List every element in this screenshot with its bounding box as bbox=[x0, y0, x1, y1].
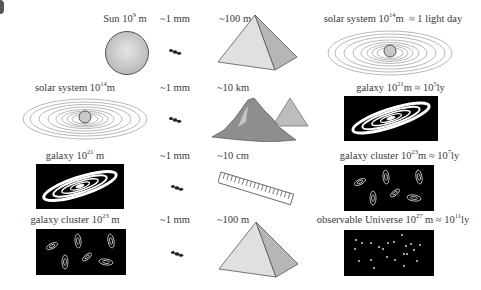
ruler-icon bbox=[218, 168, 298, 206]
label-galaxy-ly: galaxy 1021m ≈ 105ly bbox=[320, 82, 481, 93]
label-ant-3: ~1 mm bbox=[150, 150, 200, 161]
observable-universe-icon bbox=[344, 230, 434, 276]
ant-icon bbox=[170, 184, 184, 192]
galaxy-icon bbox=[36, 164, 124, 209]
sun-icon bbox=[104, 30, 150, 76]
label-galaxy-cluster-ly: galaxy cluster 1023m ≈ 107ly bbox=[318, 150, 481, 161]
label-ant-1: ~1 mm bbox=[150, 13, 200, 24]
page-edge-mark bbox=[0, 0, 4, 14]
label-observable-universe: observable Universe 1027 m ≈ 1011ly bbox=[305, 214, 481, 225]
galaxy-icon bbox=[344, 96, 438, 141]
solar-system-icon bbox=[20, 97, 150, 141]
label-solar-system-light-day: solar system 1014m ≈ 1 light day bbox=[305, 13, 481, 24]
ant-icon bbox=[170, 250, 184, 258]
label-ant-2: ~1 mm bbox=[150, 82, 200, 93]
solar-system-icon bbox=[325, 28, 455, 78]
label-ant-4: ~1 mm bbox=[150, 214, 200, 225]
ant-icon bbox=[168, 116, 182, 124]
mountain-icon bbox=[210, 92, 310, 142]
label-ruler: ~10 cm bbox=[208, 150, 258, 161]
label-solar-system: solar system 1014m bbox=[10, 82, 140, 93]
pyramid-icon bbox=[215, 14, 311, 76]
galaxy-cluster-icon bbox=[344, 165, 434, 211]
ant-icon bbox=[168, 48, 182, 56]
label-galaxy-cluster: galaxy cluster 1023 m bbox=[5, 214, 145, 225]
label-galaxy: galaxy 1021 m bbox=[10, 150, 140, 161]
galaxy-cluster-icon bbox=[36, 229, 126, 275]
pyramid-icon bbox=[215, 221, 311, 283]
